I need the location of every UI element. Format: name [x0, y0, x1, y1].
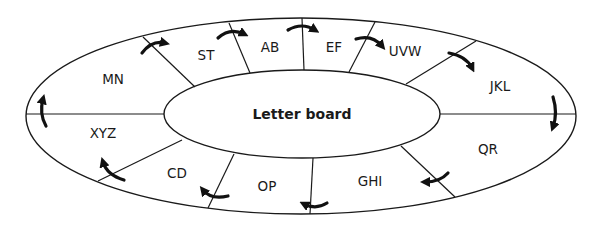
segment-label-xyz: XYZ [90, 125, 117, 141]
letter-board-diagram: Letter board AB EF UVW JKL QR GHI OP CD … [0, 0, 603, 228]
arrow-icon [304, 203, 327, 207]
segment-label-qr: QR [478, 141, 498, 157]
arrow-icon [425, 173, 448, 182]
center-label: Letter board [252, 106, 351, 122]
segment-label-ghi: GHI [358, 173, 383, 189]
segment-label-ab: AB [261, 39, 280, 55]
divider-ef-uvw [349, 22, 375, 72]
segment-label-cd: CD [167, 165, 187, 181]
arrow-icon [288, 26, 315, 30]
arrow-icon [356, 38, 382, 46]
divider-qr-ghi [401, 146, 455, 197]
divider-op-cd [208, 154, 234, 208]
arrow-icon [218, 31, 244, 38]
arrow-icon [553, 97, 556, 127]
segment-label-mn: MN [102, 71, 124, 87]
arrow-icon [449, 53, 472, 68]
segment-label-jkl: JKL [489, 78, 511, 94]
segment-label-uvw: UVW [389, 43, 421, 59]
segment-label-op: OP [258, 178, 277, 194]
arrow-icon [42, 99, 46, 126]
segment-label-st: ST [198, 47, 216, 63]
segment-label-ef: EF [326, 39, 342, 55]
